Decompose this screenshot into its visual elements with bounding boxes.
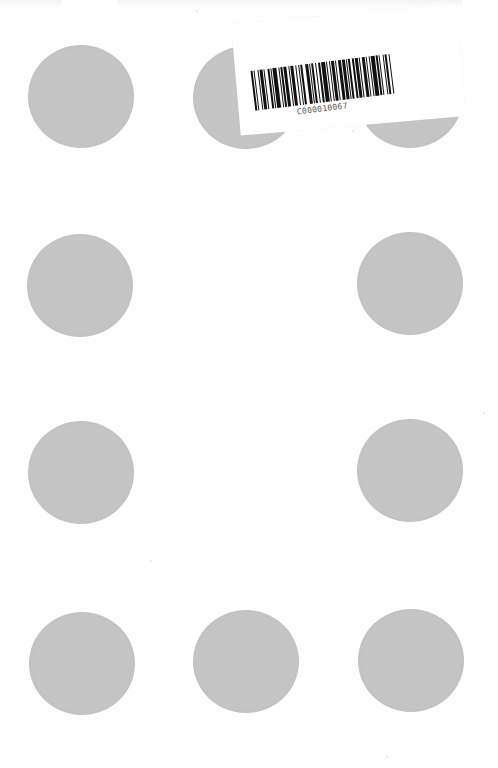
scan-speck xyxy=(386,756,388,758)
gray-dot xyxy=(27,234,133,337)
gray-dot xyxy=(28,45,134,148)
scan-speck xyxy=(196,10,198,12)
gray-dot xyxy=(357,419,463,522)
gray-dot xyxy=(193,610,299,713)
scan-speck xyxy=(352,130,354,132)
scan-speck xyxy=(483,412,485,414)
gray-dot xyxy=(357,232,463,335)
gray-dot xyxy=(29,612,135,715)
scanned-page: C000010067 xyxy=(0,0,498,768)
bleed-through-text xyxy=(0,0,62,6)
bleed-through-text xyxy=(118,0,462,6)
scan-speck xyxy=(150,560,152,562)
gray-dot xyxy=(358,609,464,712)
gray-dot xyxy=(28,421,134,524)
barcode-label: C000010067 xyxy=(231,4,466,135)
barcode xyxy=(251,54,397,111)
